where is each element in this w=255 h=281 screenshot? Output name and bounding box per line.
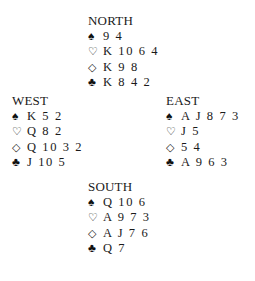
- north-hand: NORTH ♠ 9 4 ♡ K 10 6 4 ◇ K 9 8 ♣ K 8 4 2: [88, 13, 159, 91]
- north-clubs: K 8 4 2: [101, 75, 151, 91]
- west-diamonds: Q 10 3 2: [25, 140, 83, 156]
- north-hearts-row: ♡ K 10 6 4: [88, 44, 159, 60]
- heart-icon: ♡: [88, 44, 101, 60]
- club-icon: ♣: [166, 155, 179, 171]
- east-clubs-row: ♣ A 9 6 3: [166, 155, 240, 171]
- east-spades-row: ♠ A J 8 7 3: [166, 109, 240, 125]
- west-spades-row: ♠ K 5 2: [12, 109, 83, 125]
- east-hand: EAST ♠ A J 8 7 3 ♡ J 5 ◇ 5 4 ♣ A 9 6 3: [166, 93, 240, 171]
- south-spades: Q 10 6: [101, 195, 147, 211]
- west-diamonds-row: ◇ Q 10 3 2: [12, 140, 83, 156]
- south-hand: SOUTH ♠ Q 10 6 ♡ A 9 7 3 ◇ A J 7 6 ♣ Q 7: [88, 179, 151, 257]
- west-clubs-row: ♣ J 10 5: [12, 155, 83, 171]
- east-hearts: J 5: [179, 124, 200, 140]
- north-hearts: K 10 6 4: [101, 44, 159, 60]
- south-hearts-row: ♡ A 9 7 3: [88, 210, 151, 226]
- east-label: EAST: [166, 93, 240, 109]
- diamond-icon: ◇: [88, 60, 101, 76]
- south-diamonds-row: ◇ A J 7 6: [88, 226, 151, 242]
- east-diamonds: 5 4: [179, 140, 201, 156]
- west-clubs: J 10 5: [25, 155, 66, 171]
- west-spades: K 5 2: [25, 109, 63, 125]
- east-hearts-row: ♡ J 5: [166, 124, 240, 140]
- heart-icon: ♡: [12, 124, 25, 140]
- diamond-icon: ◇: [166, 140, 179, 156]
- heart-icon: ♡: [166, 124, 179, 140]
- club-icon: ♣: [88, 75, 101, 91]
- west-hand: WEST ♠ K 5 2 ♡ Q 8 2 ◇ Q 10 3 2 ♣ J 10 5: [12, 93, 83, 171]
- diamond-icon: ◇: [88, 226, 101, 242]
- spade-icon: ♠: [88, 29, 101, 45]
- spade-icon: ♠: [88, 195, 101, 211]
- spade-icon: ♠: [12, 109, 25, 125]
- east-diamonds-row: ◇ 5 4: [166, 140, 240, 156]
- east-spades: A J 8 7 3: [179, 109, 240, 125]
- south-spades-row: ♠ Q 10 6: [88, 195, 151, 211]
- spade-icon: ♠: [166, 109, 179, 125]
- heart-icon: ♡: [88, 210, 101, 226]
- north-label: NORTH: [88, 13, 159, 29]
- diamond-icon: ◇: [12, 140, 25, 156]
- north-spades: 9 4: [101, 29, 123, 45]
- east-clubs: A 9 6 3: [179, 155, 229, 171]
- south-clubs: Q 7: [101, 241, 126, 257]
- south-clubs-row: ♣ Q 7: [88, 241, 151, 257]
- north-spades-row: ♠ 9 4: [88, 29, 159, 45]
- club-icon: ♣: [12, 155, 25, 171]
- north-clubs-row: ♣ K 8 4 2: [88, 75, 159, 91]
- west-hearts: Q 8 2: [25, 124, 63, 140]
- south-diamonds: A J 7 6: [101, 226, 149, 242]
- north-diamonds-row: ◇ K 9 8: [88, 60, 159, 76]
- west-label: WEST: [12, 93, 83, 109]
- south-hearts: A 9 7 3: [101, 210, 151, 226]
- south-label: SOUTH: [88, 179, 151, 195]
- club-icon: ♣: [88, 241, 101, 257]
- west-hearts-row: ♡ Q 8 2: [12, 124, 83, 140]
- north-diamonds: K 9 8: [101, 60, 139, 76]
